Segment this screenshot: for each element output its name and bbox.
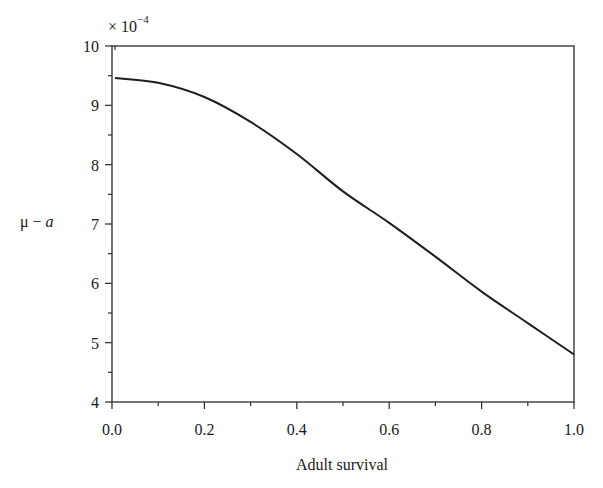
x-tick-label: 1.0 <box>564 421 584 438</box>
major-ticks <box>105 46 574 409</box>
x-tick-label: 0.6 <box>379 421 399 438</box>
y-axis-multiplier: × 10−4 <box>108 16 149 36</box>
y-tick-label: 6 <box>91 275 99 292</box>
y-tick-label: 10 <box>83 38 99 55</box>
chart-canvas: 0.00.20.40.60.81.045678910 Adult surviva… <box>0 0 603 488</box>
y-tick-label: 9 <box>91 97 99 114</box>
minor-ticks <box>108 46 528 406</box>
y-tick-label: 5 <box>91 335 99 352</box>
y-axis-label-minus: − <box>29 213 46 230</box>
y-multiplier-exponent: −4 <box>137 13 149 25</box>
x-axis-label: Adult survival <box>296 456 389 473</box>
x-tick-label: 0.0 <box>102 421 122 438</box>
tick-labels: 0.00.20.40.60.81.045678910 <box>83 38 584 438</box>
plot-frame <box>112 46 574 402</box>
y-axis-label-mu: μ <box>20 213 29 230</box>
y-multiplier-base: × 10 <box>108 18 137 35</box>
x-tick-label: 0.4 <box>287 421 307 438</box>
y-tick-label: 4 <box>91 394 99 411</box>
y-axis-label: μ − a <box>20 213 54 231</box>
y-tick-label: 8 <box>91 157 99 174</box>
x-tick-label: 0.2 <box>194 421 214 438</box>
data-line <box>115 78 574 354</box>
x-tick-label: 0.8 <box>472 421 492 438</box>
y-axis-label-a: a <box>46 213 54 230</box>
y-tick-label: 7 <box>91 216 99 233</box>
